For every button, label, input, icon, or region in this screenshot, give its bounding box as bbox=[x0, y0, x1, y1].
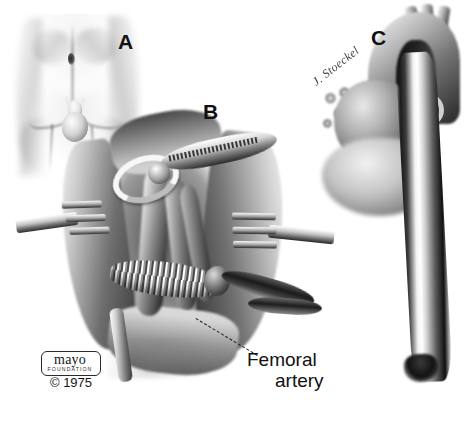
mayo-foundation-text: FOUNDATION bbox=[41, 366, 99, 372]
panel-c-aortic-arch: J. Stoeckel bbox=[312, 8, 470, 408]
retractor-left-prong-3 bbox=[69, 227, 109, 235]
leader-origin-tissue bbox=[108, 338, 200, 378]
retractor-right-prong-3 bbox=[233, 241, 277, 249]
panel-b-femoral-exposure bbox=[52, 112, 302, 382]
umbilicus bbox=[68, 53, 75, 65]
mayo-foundation-credit: mayo FOUNDATION © 1975 bbox=[41, 351, 103, 391]
vascular-clamp-tip bbox=[148, 162, 170, 184]
panel-letter-b: B bbox=[203, 101, 218, 122]
copyright-text: © 1975 bbox=[41, 375, 101, 390]
femoral-artery-label-line2: artery bbox=[247, 370, 324, 391]
retractor-left-prong-1 bbox=[62, 200, 102, 208]
femoral-artery-label: Femoral artery bbox=[247, 349, 324, 392]
panel-letter-c: C bbox=[371, 27, 386, 48]
femoral-artery-label-line1: Femoral bbox=[247, 349, 317, 370]
panel-letter-a: A bbox=[118, 31, 133, 52]
retractor-left-prong-2 bbox=[66, 214, 106, 222]
medical-illustration-figure: J. Stoeckel A B C Femoral artery mayo FO… bbox=[0, 0, 470, 423]
retractor-right-prong-1 bbox=[232, 213, 276, 221]
retractor-right-prong-2 bbox=[232, 227, 276, 235]
